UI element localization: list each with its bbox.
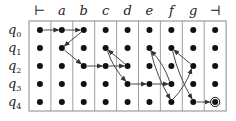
column-header: d bbox=[123, 3, 131, 18]
configuration-dot bbox=[125, 63, 131, 69]
automaton-run-diagram: ⊢abcdefg⊣ q0q1q2q3q4 bbox=[0, 0, 236, 121]
configuration-dot bbox=[212, 81, 218, 87]
configuration-dot bbox=[190, 99, 196, 105]
configuration-dot bbox=[146, 63, 152, 69]
configuration-dot bbox=[59, 99, 65, 105]
configuration-dot bbox=[168, 27, 174, 33]
configuration-dot bbox=[37, 81, 43, 87]
configuration-dot bbox=[190, 45, 196, 51]
row-label: q1 bbox=[8, 40, 21, 57]
configuration-dot bbox=[125, 81, 131, 87]
configuration-dot bbox=[59, 63, 65, 69]
configuration-dot bbox=[168, 63, 174, 69]
column-header: ⊢ bbox=[34, 3, 45, 18]
configuration-dot bbox=[146, 27, 152, 33]
configuration-dot bbox=[168, 81, 174, 87]
configuration-dot bbox=[212, 63, 218, 69]
configuration-dot bbox=[81, 27, 87, 33]
row-label: q2 bbox=[8, 58, 21, 75]
configuration-dot bbox=[168, 45, 174, 51]
configuration-dot bbox=[146, 81, 152, 87]
configuration-dot bbox=[212, 27, 218, 33]
column-headers: ⊢abcdefg⊣ bbox=[34, 3, 220, 18]
configuration-dot bbox=[146, 45, 152, 51]
configuration-dot bbox=[103, 81, 109, 87]
configuration-dot bbox=[59, 81, 65, 87]
configuration-dot bbox=[168, 99, 174, 105]
column-header: b bbox=[80, 3, 88, 18]
column-header: ⊣ bbox=[210, 3, 221, 18]
configuration-dot bbox=[103, 63, 109, 69]
configuration-dot bbox=[59, 27, 65, 33]
configuration-dots bbox=[37, 27, 220, 107]
configuration-dot bbox=[125, 45, 131, 51]
accepting-dot bbox=[212, 99, 218, 105]
configuration-dot bbox=[212, 45, 218, 51]
configuration-dot bbox=[81, 63, 87, 69]
configuration-dot bbox=[37, 63, 43, 69]
configuration-dot bbox=[37, 27, 43, 33]
configuration-dot bbox=[81, 81, 87, 87]
column-header: a bbox=[58, 3, 66, 18]
configuration-dot bbox=[37, 45, 43, 51]
configuration-dot bbox=[81, 45, 87, 51]
configuration-dot bbox=[59, 45, 65, 51]
column-header: f bbox=[168, 3, 176, 18]
column-header: c bbox=[102, 3, 110, 18]
row-label: q3 bbox=[8, 76, 21, 93]
configuration-dot bbox=[125, 99, 131, 105]
configuration-dot bbox=[190, 63, 196, 69]
column-header: g bbox=[189, 3, 197, 18]
row-label: q4 bbox=[8, 94, 21, 111]
column-header: e bbox=[146, 3, 154, 18]
configuration-dot bbox=[81, 99, 87, 105]
configuration-dot bbox=[190, 81, 196, 87]
row-label: q0 bbox=[8, 22, 21, 39]
configuration-dot bbox=[103, 27, 109, 33]
configuration-dot bbox=[103, 45, 109, 51]
configuration-dot bbox=[37, 99, 43, 105]
configuration-dot bbox=[103, 99, 109, 105]
configuration-dot bbox=[146, 99, 152, 105]
configuration-dot bbox=[190, 27, 196, 33]
configuration-dot bbox=[125, 27, 131, 33]
row-labels: q0q1q2q3q4 bbox=[8, 22, 21, 111]
